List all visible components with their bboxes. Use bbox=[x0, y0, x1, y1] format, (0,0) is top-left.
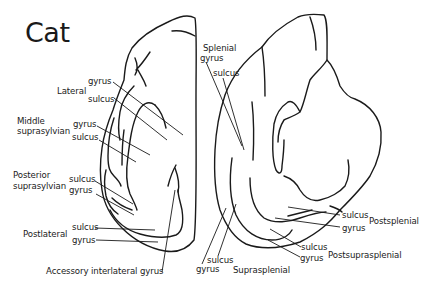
diagram-title: Cat bbox=[25, 18, 69, 48]
lateral-gyrus-label: gyrus bbox=[88, 76, 112, 86]
postsplenial-sulcus-label: sulcus bbox=[342, 210, 368, 220]
postsuprasplenial-group-label: Postsuprasplenial bbox=[328, 250, 402, 260]
middle-suprasylvian-gyrus-label: gyrus bbox=[73, 119, 97, 129]
posterior-suprasylvian-label-line1: Posterior bbox=[13, 170, 50, 180]
postsuprasplenial-gyrus-label: gyrus bbox=[300, 253, 324, 263]
postlateral-sulcus-label: sulcus bbox=[72, 222, 98, 232]
posterior-suprasylvian-gyrus-label: gyrus bbox=[69, 185, 93, 195]
splenial-group-label: Splenial bbox=[203, 43, 236, 53]
splenial-gyrus-label: gyrus bbox=[200, 53, 224, 63]
suprasplenial-group-label: Suprasplenial bbox=[233, 265, 290, 275]
postlateral-group-label: Postlateral bbox=[23, 229, 67, 239]
suprasplenial-gyrus-label: gyrus bbox=[196, 264, 220, 274]
posterior-suprasylvian-sulcus-label: sulcus bbox=[69, 174, 95, 184]
lateral-sulcus-label: sulcus bbox=[88, 94, 114, 104]
middle-suprasylvian-label-line1: Middle bbox=[17, 116, 45, 126]
postsplenial-group-label: Postsplenial bbox=[369, 216, 419, 226]
cat-brain-diagram: Cat gyrus Lateral sulcus Middle suprasyl… bbox=[0, 0, 427, 283]
accessory-interlateral-gyrus-label: Accessory interlateral gyrus bbox=[46, 266, 163, 276]
middle-suprasylvian-sulcus-label: sulcus bbox=[72, 132, 98, 142]
postsplenial-gyrus-label: gyrus bbox=[342, 223, 366, 233]
lateral-group-label: Lateral bbox=[57, 86, 86, 96]
splenial-sulcus-label: sulcus bbox=[213, 68, 239, 78]
postlateral-gyrus-label: gyrus bbox=[72, 235, 96, 245]
posterior-suprasylvian-label-line2: suprasylvian bbox=[13, 181, 66, 191]
postsuprasplenial-sulcus-label: sulcus bbox=[301, 242, 327, 252]
middle-suprasylvian-label-line2: suprasylvian bbox=[17, 126, 70, 136]
